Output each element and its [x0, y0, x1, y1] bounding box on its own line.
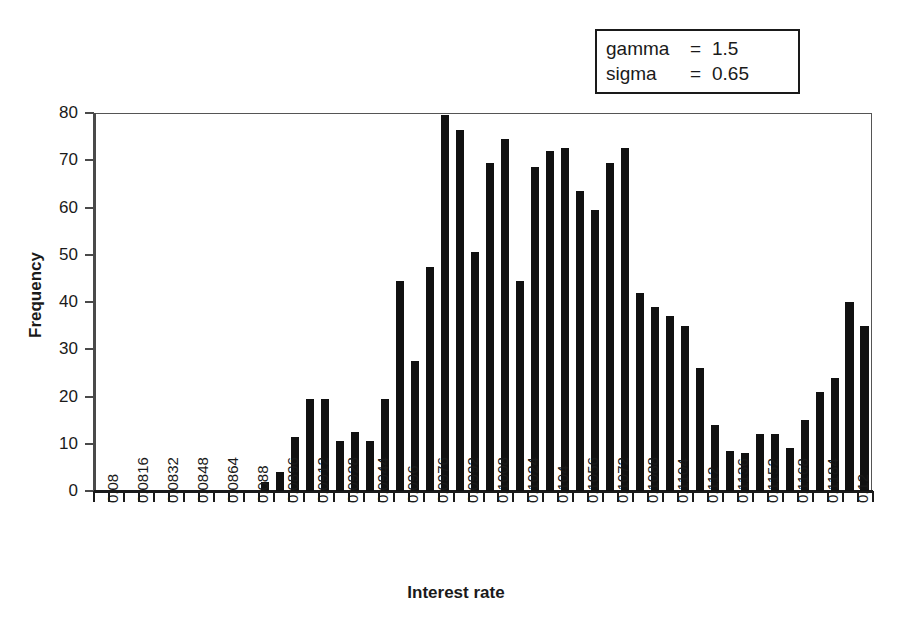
x-tick-label-0.12: 0.12: [855, 474, 870, 503]
x-tick: [123, 491, 125, 502]
histogram-bar: [756, 434, 764, 491]
x-tick-label-0.088: 0.088: [255, 465, 270, 503]
y-tick-label-20: 20: [40, 388, 78, 405]
x-tick: [243, 491, 245, 502]
x-tick-label-0.1088: 0.1088: [645, 457, 660, 503]
x-tick: [333, 491, 335, 502]
x-tick: [213, 491, 215, 502]
x-tick-label-0.0928: 0.0928: [345, 457, 360, 503]
x-tick: [303, 491, 305, 502]
x-tick: [393, 491, 395, 502]
x-tick-label-0.096: 0.096: [405, 465, 420, 503]
x-tick-label-0.1168: 0.1168: [795, 458, 810, 503]
x-tick: [542, 491, 544, 502]
y-tick-label-0: 0: [40, 482, 78, 499]
histogram-bar: [845, 302, 853, 491]
x-tick: [183, 491, 185, 502]
x-tick-label-0.0832: 0.0832: [165, 457, 180, 503]
y-tick-label-60: 60: [40, 199, 78, 216]
x-tick-label-0.1056: 0.1056: [585, 457, 600, 503]
histogram-bars: [93, 113, 872, 491]
histogram-bar: [426, 267, 434, 491]
histogram-bar: [666, 316, 674, 491]
histogram-bar: [606, 163, 614, 491]
x-tick-label-0.1184: 0.1184: [825, 458, 840, 503]
x-tick: [572, 491, 574, 502]
histogram-bar: [816, 392, 824, 491]
x-tick-label-0.112: 0.112: [705, 467, 720, 503]
x-tick-label-0.104: 0.104: [555, 465, 570, 503]
x-tick: [632, 491, 634, 502]
x-tick: [722, 491, 724, 502]
histogram-bar: [591, 210, 599, 491]
x-tick-label-0.1136: 0.1136: [735, 458, 750, 503]
x-tick: [842, 491, 844, 502]
histogram-bar: [501, 139, 509, 491]
y-tick-label-80: 80: [40, 104, 78, 121]
x-tick-label-0.08: 0.08: [105, 474, 120, 503]
histogram-bar: [786, 448, 794, 491]
histogram-bar: [516, 281, 524, 491]
histogram-bar: [636, 293, 644, 491]
histogram-bar: [366, 441, 374, 491]
histogram-bar: [860, 326, 868, 491]
x-tick: [153, 491, 155, 502]
x-tick: [512, 491, 514, 502]
x-tick-label-0.0976: 0.0976: [435, 457, 450, 503]
x-tick: [453, 491, 455, 502]
y-tick-label-70: 70: [40, 151, 78, 168]
histogram-bar: [441, 115, 449, 491]
x-axis-tick-labels: 0.080.08160.08320.08480.08640.0880.08960…: [93, 503, 873, 573]
x-tick-label-0.0816: 0.0816: [135, 457, 150, 503]
x-tick: [273, 491, 275, 502]
histogram-bar: [396, 281, 404, 491]
x-tick-label-0.0848: 0.0848: [195, 457, 210, 503]
histogram-bar: [471, 252, 479, 491]
x-tick: [692, 491, 694, 502]
x-tick-label-0.1024: 0.1024: [525, 457, 540, 503]
x-tick: [752, 491, 754, 502]
x-tick-label-0.0944: 0.0944: [375, 457, 390, 503]
x-tick: [423, 491, 425, 502]
histogram-bar: [576, 191, 584, 491]
x-tick: [483, 491, 485, 502]
x-tick-label-0.1072: 0.1072: [615, 457, 630, 503]
histogram-bar: [486, 163, 494, 491]
x-tick: [782, 491, 784, 502]
histogram-bar: [546, 151, 554, 491]
histogram-bar: [531, 167, 539, 491]
x-tick: [602, 491, 604, 502]
x-tick: [363, 491, 365, 502]
histogram-bar: [621, 148, 629, 491]
x-tick-label-0.0864: 0.0864: [225, 457, 240, 503]
y-axis-title: Frequency: [26, 235, 46, 355]
x-tick-label-0.1152: 0.1152: [765, 458, 780, 503]
y-tick-label-10: 10: [40, 435, 78, 452]
x-tick-label-0.0992: 0.0992: [465, 457, 480, 503]
x-tick: [812, 491, 814, 502]
x-tick-label-0.0912: 0.0912: [315, 457, 330, 503]
histogram-bar: [726, 451, 734, 491]
histogram-bar: [456, 130, 464, 491]
x-axis-title: Interest rate: [0, 583, 912, 603]
x-tick: [872, 491, 874, 502]
x-tick: [93, 491, 95, 502]
x-tick-label-0.1008: 0.1008: [495, 457, 510, 503]
x-tick: [662, 491, 664, 502]
x-tick-label-0.1104: 0.1104: [675, 458, 690, 503]
histogram-bar: [336, 441, 344, 491]
histogram-bar: [561, 148, 569, 491]
x-tick-label-0.0896: 0.0896: [285, 457, 300, 503]
histogram-bar: [696, 368, 704, 491]
